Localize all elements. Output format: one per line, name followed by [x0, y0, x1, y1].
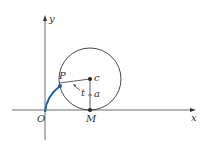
radius-label: a: [94, 89, 100, 99]
angle-label: t: [81, 88, 85, 98]
p-label: P: [59, 71, 66, 81]
cycloid-curve: [45, 86, 60, 112]
diagram-canvas: [0, 0, 209, 147]
center-dot: [88, 77, 92, 81]
p-dot: [58, 84, 62, 88]
cycloid-diagram: y x O P c a t M: [0, 0, 209, 147]
x-axis-label: x: [191, 113, 197, 123]
m-dot: [88, 108, 92, 112]
y-axis-label: y: [49, 14, 55, 24]
m-label: M: [86, 114, 96, 124]
y-axis-arrow-icon: [43, 15, 47, 21]
center-label: c: [94, 73, 100, 83]
origin-label: O: [37, 114, 45, 124]
